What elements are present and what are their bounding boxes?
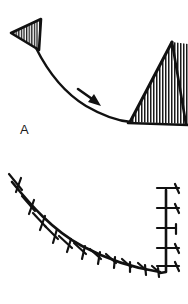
panel-label-a: A: [20, 123, 29, 136]
surgical-figure: A: [0, 0, 188, 304]
panel-b-drawing: [0, 152, 188, 304]
panel-a: A: [0, 0, 188, 152]
panel-b: B: [0, 152, 188, 304]
